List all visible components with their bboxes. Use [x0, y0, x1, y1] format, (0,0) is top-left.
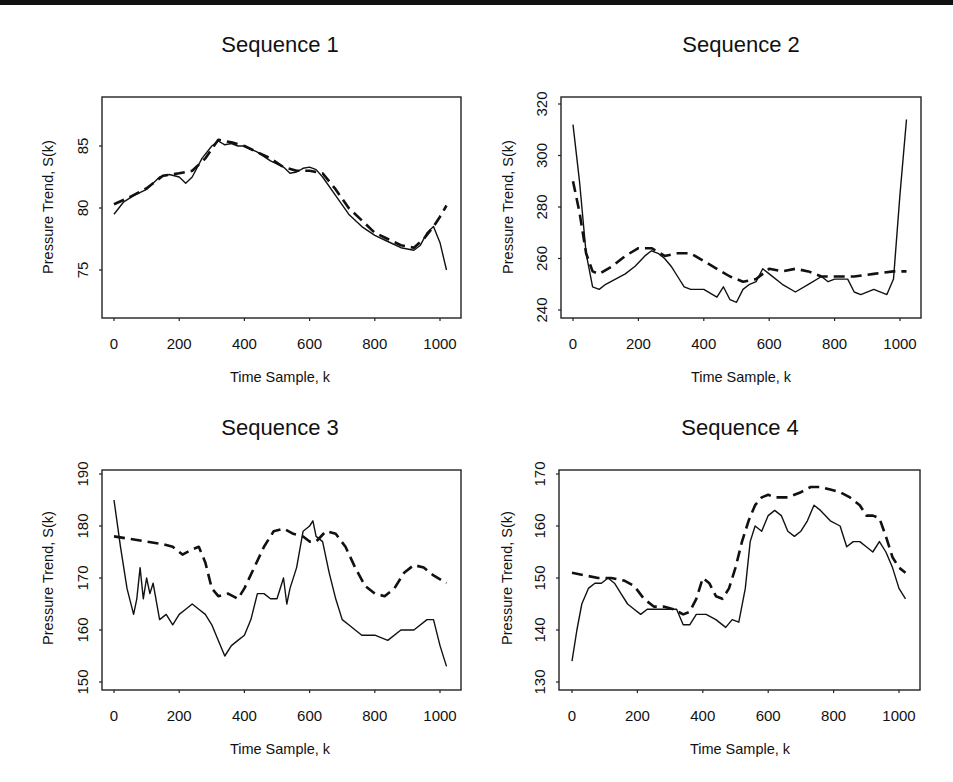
x-tick-label: 800: [362, 707, 387, 724]
x-tick-labels: 02004006008001000: [569, 318, 917, 352]
x-tick-label: 800: [821, 707, 846, 724]
series-solid-line: [572, 505, 906, 661]
x-tick-label: 1000: [883, 335, 916, 352]
panel-sequence-1: Sequence 1 758085 02004006008001000 Pres…: [40, 32, 461, 385]
x-tick-label: 600: [756, 707, 781, 724]
y-tick-label: 180: [74, 513, 91, 538]
x-tick-label: 0: [110, 335, 118, 352]
figure: Sequence 1 758085 02004006008001000 Pres…: [0, 0, 953, 782]
y-tick-label: 260: [533, 246, 550, 271]
y-tick-label: 160: [74, 617, 91, 642]
x-tick-label: 400: [232, 707, 257, 724]
panel-title: Sequence 3: [221, 415, 338, 440]
y-tick-label: 85: [74, 138, 91, 155]
panel-title: Sequence 2: [682, 32, 799, 57]
y-tick-labels: 130140150160170: [531, 461, 559, 694]
x-tick-label: 0: [110, 707, 118, 724]
plot-frame: [561, 97, 921, 318]
y-tick-labels: 758085: [74, 138, 102, 279]
series-solid-line: [114, 141, 447, 270]
y-axis-label: Pressure Trend, S(k): [500, 140, 516, 274]
x-axis-label: Time Sample, k: [230, 741, 331, 757]
x-tick-label: 200: [625, 707, 650, 724]
y-tick-label: 140: [531, 617, 548, 642]
x-tick-labels: 02004006008001000: [110, 318, 457, 352]
y-tick-label: 170: [531, 461, 548, 486]
y-tick-labels: 150160170180190: [74, 461, 102, 694]
x-tick-label: 800: [362, 335, 387, 352]
x-tick-label: 400: [691, 335, 716, 352]
panel-sequence-2: Sequence 2 240260280300320 0200400600800…: [500, 32, 921, 385]
y-tick-label: 300: [533, 143, 550, 168]
y-tick-label: 190: [74, 461, 91, 486]
y-axis-label: Pressure Trend, S(k): [499, 511, 515, 645]
x-tick-label: 1000: [423, 335, 456, 352]
panel-title: Sequence 1: [221, 32, 338, 57]
series-dashed-line: [573, 181, 907, 281]
x-tick-labels: 02004006008001000: [568, 690, 916, 724]
x-tick-label: 200: [626, 335, 651, 352]
x-tick-label: 800: [822, 335, 847, 352]
y-tick-labels: 240260280300320: [533, 91, 561, 322]
y-tick-label: 280: [533, 194, 550, 219]
y-tick-label: 150: [531, 565, 548, 590]
panel-title: Sequence 4: [681, 415, 798, 440]
x-axis-label: Time Sample, k: [691, 369, 792, 385]
series-solid-line: [573, 120, 907, 303]
x-axis-label: Time Sample, k: [230, 369, 331, 385]
y-tick-label: 160: [531, 513, 548, 538]
panel-sequence-3: Sequence 3 150160170180190 0200400600800…: [40, 415, 461, 757]
y-tick-label: 170: [74, 565, 91, 590]
y-axis-label: Pressure Trend, S(k): [40, 140, 56, 274]
y-tick-label: 320: [533, 91, 550, 116]
y-tick-label: 75: [74, 262, 91, 279]
x-tick-label: 200: [167, 707, 192, 724]
y-tick-label: 150: [74, 669, 91, 694]
x-tick-label: 0: [569, 335, 577, 352]
plot-frame: [102, 97, 461, 318]
x-tick-label: 0: [568, 707, 576, 724]
x-tick-label: 600: [757, 335, 782, 352]
x-tick-labels: 02004006008001000: [110, 690, 457, 724]
x-tick-label: 200: [167, 335, 192, 352]
y-axis-label: Pressure Trend, S(k): [40, 511, 56, 645]
panel-sequence-4: Sequence 4 130140150160170 0200400600800…: [499, 415, 920, 757]
x-tick-label: 400: [232, 335, 257, 352]
x-axis-label: Time Sample, k: [690, 741, 791, 757]
plot-frame: [559, 470, 920, 690]
y-tick-label: 240: [533, 297, 550, 322]
x-tick-label: 600: [297, 707, 322, 724]
plot-frame: [102, 470, 461, 690]
x-tick-label: 1000: [882, 707, 915, 724]
x-tick-label: 400: [690, 707, 715, 724]
y-tick-label: 80: [74, 200, 91, 217]
series-dashed-line: [114, 140, 447, 248]
y-tick-label: 130: [531, 669, 548, 694]
x-tick-label: 600: [297, 335, 322, 352]
x-tick-label: 1000: [423, 707, 456, 724]
